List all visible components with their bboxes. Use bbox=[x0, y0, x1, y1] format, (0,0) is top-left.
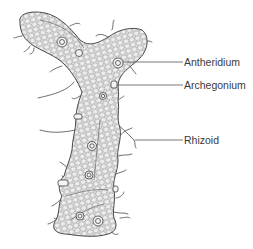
label-archegonium: Archegonium bbox=[184, 79, 246, 91]
leader-lines bbox=[117, 62, 183, 140]
label-antheridium: Antheridium bbox=[184, 56, 240, 68]
diagram-canvas: Antheridium Archegonium Rhizoid bbox=[0, 0, 253, 249]
label-rhizoid: Rhizoid bbox=[184, 134, 219, 146]
thallus-illustration bbox=[0, 0, 253, 249]
